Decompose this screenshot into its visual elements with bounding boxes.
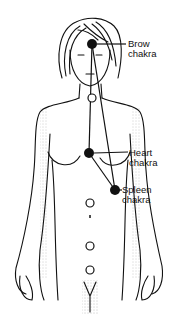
root-chakra-circle (86, 266, 94, 274)
brow-chakra-label: Brow chakra (128, 39, 157, 59)
solar-plexus-circle (86, 199, 94, 207)
label-line: chakra (128, 49, 157, 59)
brow-chakra-dot (87, 39, 97, 49)
spleen-chakra-dot (110, 185, 120, 195)
heart-chakra-label: Heart chakra (129, 148, 158, 168)
spleen-chakra-label: Spleen chakra (122, 185, 152, 205)
sacral-chakra-circle (86, 242, 94, 250)
throat-chakra-circle (88, 94, 96, 102)
chakra-diagram: Brow chakra Heart chakra Spleen chakra (0, 0, 174, 326)
heart-chakra-dot (84, 148, 94, 158)
label-line: chakra (129, 158, 158, 168)
label-line: chakra (122, 195, 152, 205)
